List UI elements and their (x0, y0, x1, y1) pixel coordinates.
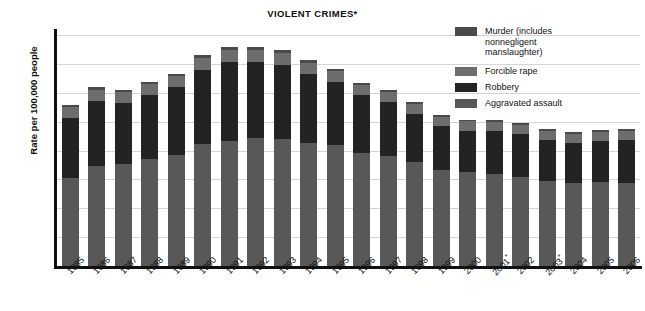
bar-column[interactable] (62, 35, 79, 266)
bar-segment (380, 92, 397, 102)
bar-column[interactable] (141, 35, 158, 266)
bar-segment (194, 144, 211, 266)
legend-swatch (455, 83, 477, 92)
bar-segment (62, 178, 79, 266)
bar-segment (539, 131, 556, 140)
chart-title: VIOLENT CRIMES* (0, 8, 645, 19)
legend-item[interactable]: Forcible rape (455, 66, 538, 77)
bar-segment (512, 123, 529, 125)
legend-item[interactable]: Aggravated assault (455, 98, 562, 109)
bar-segment (353, 83, 370, 85)
legend-label: Aggravated assault (485, 98, 562, 109)
bar-segment (247, 62, 264, 138)
bar-segment (327, 71, 344, 82)
chart-title-text: VIOLENT CRIMES* (267, 8, 357, 19)
bar-segment (221, 47, 238, 50)
bar-segment (565, 143, 582, 183)
bar-column[interactable] (565, 35, 582, 266)
bar-segment (88, 166, 105, 266)
bar-segment (194, 70, 211, 144)
legend-swatch (455, 99, 477, 108)
bar-column[interactable] (221, 35, 238, 266)
bar-column[interactable] (300, 35, 317, 266)
bar-segment (115, 164, 132, 266)
bar-segment (539, 140, 556, 181)
bar-segment (194, 58, 211, 70)
bar-column[interactable] (247, 35, 264, 266)
bar-segment (168, 76, 185, 87)
legend-item[interactable]: Robbery (455, 82, 519, 93)
bar-column[interactable] (406, 35, 423, 266)
bar-segment (459, 120, 476, 122)
bar-segment (168, 155, 185, 266)
bar-segment (512, 125, 529, 135)
bar-segment (300, 60, 317, 63)
bar-segment (380, 102, 397, 156)
plot-area: 0100200300400500600700800 (57, 35, 640, 266)
bar-segment (247, 50, 264, 62)
bar-segment (353, 153, 370, 266)
bar-segment (274, 139, 291, 266)
bar-segment (512, 177, 529, 267)
bar-segment (406, 162, 423, 266)
bar-segment (459, 172, 476, 266)
bar-segment (512, 134, 529, 176)
bar-segment (141, 95, 158, 159)
bar-segment (565, 183, 582, 266)
bar-segment (459, 131, 476, 173)
bar-column[interactable] (380, 35, 397, 266)
bar-column[interactable] (327, 35, 344, 266)
bar-column[interactable] (433, 35, 450, 266)
bar-column[interactable] (194, 35, 211, 266)
bar-column[interactable] (618, 35, 635, 266)
bar-segment (406, 114, 423, 162)
bar-segment (486, 174, 503, 266)
bar-column[interactable] (115, 35, 132, 266)
bar-segment (141, 84, 158, 95)
y-axis-title: Rate per 100,000 people (28, 11, 39, 191)
bar-segment (380, 156, 397, 266)
legend-item[interactable]: Murder (includes nonnegligent manslaught… (455, 26, 552, 58)
bar-segment (168, 87, 185, 155)
bar-segment (221, 50, 238, 62)
bar-column[interactable] (353, 35, 370, 266)
bar-segment (62, 118, 79, 178)
bar-segment (247, 138, 264, 266)
bar-segment (618, 183, 635, 266)
bar-segment (406, 104, 423, 114)
bar-column[interactable] (592, 35, 609, 266)
legend-swatch (455, 67, 477, 76)
legend-label: Murder (includes nonnegligent manslaught… (485, 26, 552, 58)
bar-segment (62, 107, 79, 118)
bar-segment (141, 82, 158, 84)
bar-segment (221, 62, 238, 141)
bar-column[interactable] (168, 35, 185, 266)
bar-column[interactable] (274, 35, 291, 266)
bar-segment (592, 182, 609, 266)
bar-column[interactable] (88, 35, 105, 266)
bar-segment (486, 120, 503, 122)
bar-segment (433, 170, 450, 266)
bar-segment (327, 82, 344, 146)
bar-segment (433, 126, 450, 169)
bar-segment (565, 134, 582, 143)
bar-segment (486, 131, 503, 174)
bar-segment (618, 140, 635, 183)
bar-segment (168, 74, 185, 77)
bar-segment (115, 103, 132, 165)
bar-segment (327, 69, 344, 71)
bar-segment (274, 50, 291, 53)
bar-segment (618, 129, 635, 131)
bar-segment (115, 90, 132, 92)
legend-swatch (455, 27, 477, 36)
bar-segment (221, 141, 238, 266)
bar-segment (380, 90, 397, 92)
bar-segment (62, 105, 79, 107)
bar-segment (592, 132, 609, 141)
legend-label: Robbery (485, 82, 519, 93)
violent-crimes-chart: VIOLENT CRIMES* Rate per 100,000 people … (0, 0, 645, 311)
bar-segment (300, 63, 317, 74)
bar-segment (247, 47, 264, 50)
bar-segment (459, 121, 476, 130)
bar-column[interactable] (539, 35, 556, 266)
